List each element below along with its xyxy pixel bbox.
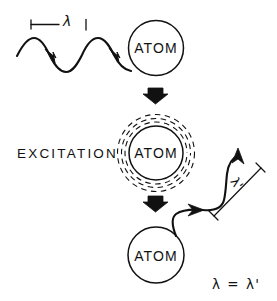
incident-wave-arrow-2 (109, 48, 120, 63)
incident-wave-arrow-1 (45, 49, 56, 63)
incident-wavelength-label: λ (63, 13, 71, 29)
conclusion-equation: λ = λ' (212, 276, 261, 292)
lambda-caliper-incident (31, 20, 86, 31)
emitted-wave-arrow-2 (232, 148, 244, 164)
atom-label-emitting: ATOM (128, 248, 184, 264)
transition-arrow-down-1 (143, 88, 168, 104)
emitted-wave (173, 155, 239, 236)
lambda-caliper-emitted (209, 163, 265, 220)
excitation-stage-label: EXCITATION (17, 146, 118, 161)
transition-arrow-down-2 (143, 196, 168, 212)
atom-label-incident: ATOM (128, 40, 184, 56)
atom-label-excited: ATOM (128, 145, 184, 161)
physics-figure: ATOM λ EXCITATION ATOM ATOM λ' λ = λ' (0, 0, 277, 301)
